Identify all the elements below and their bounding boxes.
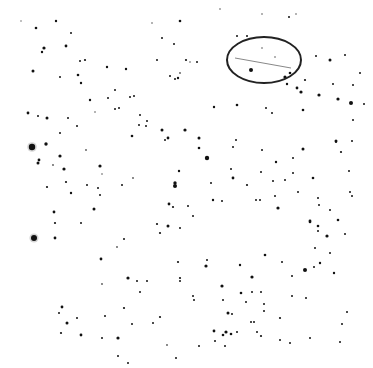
star bbox=[70, 192, 72, 194]
star bbox=[263, 303, 265, 305]
star bbox=[337, 219, 340, 222]
star bbox=[329, 252, 331, 254]
star bbox=[164, 139, 166, 141]
star bbox=[67, 117, 69, 119]
star bbox=[59, 76, 61, 78]
star bbox=[332, 83, 334, 85]
star bbox=[177, 261, 179, 263]
star bbox=[198, 137, 201, 140]
star bbox=[292, 172, 294, 174]
star bbox=[58, 312, 60, 314]
star bbox=[302, 148, 305, 151]
star bbox=[255, 199, 257, 201]
star bbox=[151, 22, 153, 24]
star bbox=[224, 345, 226, 347]
star bbox=[291, 295, 293, 297]
star bbox=[59, 132, 61, 134]
star bbox=[133, 95, 135, 97]
star bbox=[276, 206, 279, 209]
star bbox=[80, 222, 82, 224]
star bbox=[174, 78, 176, 80]
star bbox=[35, 27, 38, 30]
star bbox=[317, 93, 320, 96]
star bbox=[177, 77, 179, 79]
star bbox=[264, 254, 267, 257]
star bbox=[131, 135, 134, 138]
star bbox=[251, 291, 253, 293]
star bbox=[42, 46, 45, 49]
star bbox=[263, 310, 265, 312]
star bbox=[340, 151, 342, 153]
star bbox=[101, 283, 103, 285]
star bbox=[178, 170, 180, 172]
star bbox=[284, 179, 286, 181]
star bbox=[336, 97, 339, 100]
star bbox=[249, 68, 253, 72]
star bbox=[127, 362, 129, 364]
star bbox=[261, 47, 263, 49]
star bbox=[281, 261, 283, 263]
star bbox=[296, 87, 299, 90]
star bbox=[62, 167, 65, 170]
star bbox=[240, 292, 243, 295]
star bbox=[185, 59, 187, 61]
star bbox=[291, 275, 293, 277]
star bbox=[314, 247, 316, 249]
star bbox=[86, 184, 88, 186]
star-field-image bbox=[0, 0, 373, 368]
star bbox=[85, 149, 87, 151]
star bbox=[161, 129, 164, 132]
star bbox=[239, 264, 241, 266]
star bbox=[192, 295, 194, 297]
star bbox=[271, 112, 273, 114]
star bbox=[116, 246, 118, 248]
star bbox=[222, 334, 225, 337]
star bbox=[313, 266, 315, 268]
star bbox=[146, 120, 148, 122]
star bbox=[117, 355, 119, 357]
star bbox=[44, 142, 47, 145]
star bbox=[114, 108, 116, 110]
star bbox=[114, 89, 116, 91]
star bbox=[123, 307, 125, 309]
star bbox=[94, 111, 96, 113]
star bbox=[66, 322, 69, 325]
star bbox=[179, 20, 182, 23]
star bbox=[136, 280, 138, 282]
star bbox=[93, 208, 96, 211]
star bbox=[65, 45, 68, 48]
star bbox=[198, 147, 201, 150]
star bbox=[279, 317, 281, 319]
star bbox=[70, 32, 72, 34]
star bbox=[20, 20, 21, 21]
star bbox=[351, 140, 353, 142]
star bbox=[214, 340, 216, 342]
star bbox=[317, 230, 319, 232]
star bbox=[139, 114, 141, 116]
star bbox=[131, 323, 133, 325]
star bbox=[289, 72, 292, 75]
star bbox=[212, 199, 214, 201]
star bbox=[38, 159, 41, 162]
star bbox=[236, 35, 238, 37]
star bbox=[41, 51, 43, 53]
star bbox=[161, 37, 163, 39]
star bbox=[250, 321, 252, 323]
star bbox=[54, 222, 56, 224]
star bbox=[98, 164, 101, 167]
star bbox=[325, 234, 328, 237]
star bbox=[210, 182, 212, 184]
star bbox=[138, 124, 140, 126]
star bbox=[221, 200, 223, 202]
star bbox=[319, 262, 321, 264]
star bbox=[303, 268, 307, 272]
star bbox=[116, 336, 119, 339]
star bbox=[297, 191, 299, 193]
star bbox=[260, 171, 262, 173]
star bbox=[167, 137, 170, 140]
star bbox=[261, 149, 263, 151]
star bbox=[101, 173, 103, 175]
star bbox=[312, 177, 315, 180]
star bbox=[232, 146, 234, 148]
star bbox=[152, 322, 154, 324]
